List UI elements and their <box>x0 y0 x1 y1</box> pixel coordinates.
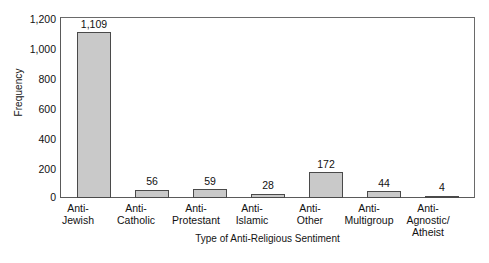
x-tick-label-anti-jewish: Anti- Jewish <box>48 202 108 226</box>
y-tick-label: 200 <box>18 164 56 175</box>
x-tick-line: Other <box>280 214 340 226</box>
x-tick-line: Anti- <box>392 202 464 214</box>
x-tick-line: Anti- <box>161 202 231 214</box>
x-tick-line: Islamic <box>222 214 282 226</box>
bar-value-label: 59 <box>180 175 240 187</box>
x-tick-label-anti-catholic: Anti- Catholic <box>106 202 166 226</box>
bar-anti-islamic <box>251 194 285 198</box>
x-tick-label-anti-other: Anti- Other <box>280 202 340 226</box>
bar-anti-protestant <box>193 189 227 198</box>
y-tick-label: 1,000 <box>18 44 56 55</box>
x-tick-label-anti-protestant: Anti- Protestant <box>161 202 231 226</box>
x-tick-line: Anti- <box>280 202 340 214</box>
y-tick-label: 600 <box>18 104 56 115</box>
x-tick-label-anti-islamic: Anti- Islamic <box>222 202 282 226</box>
bar-value-label: 44 <box>354 177 414 189</box>
bar-value-label: 4 <box>412 181 472 193</box>
x-tick-line: Anti- <box>106 202 166 214</box>
bar-value-label: 1,109 <box>64 18 124 30</box>
bar-anti-jewish <box>77 32 111 198</box>
x-axis-title: Type of Anti-Religious Sentiment <box>60 233 475 244</box>
bar-value-label: 56 <box>122 175 182 187</box>
bar-value-label: 172 <box>296 158 356 170</box>
x-tick-line: Anti- <box>48 202 108 214</box>
bar-anti-multigroup <box>367 191 401 198</box>
bar-value-label: 28 <box>238 179 298 191</box>
x-tick-line: Protestant <box>161 214 231 226</box>
x-tick-line: Catholic <box>106 214 166 226</box>
x-tick-line: Jewish <box>48 214 108 226</box>
bar-anti-agnostic-atheist <box>425 196 459 199</box>
y-tick-label: 400 <box>18 134 56 145</box>
bars-layer: 1,109 56 59 28 172 44 4 <box>61 18 474 198</box>
bar-anti-catholic <box>135 190 169 198</box>
y-tick-label: 800 <box>18 74 56 85</box>
x-tick-line: Agnostic/ <box>392 214 464 226</box>
y-tick-label: 1,200 <box>18 14 56 25</box>
x-tick-line: Anti- <box>222 202 282 214</box>
bar-anti-other <box>309 172 343 198</box>
bar-chart: Frequency 1,200 1,000 800 600 400 200 0 … <box>0 0 489 263</box>
